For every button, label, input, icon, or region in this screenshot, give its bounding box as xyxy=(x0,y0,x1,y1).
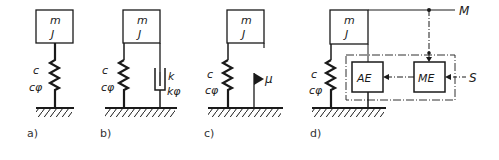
friction-element xyxy=(254,73,264,108)
input-label-s: S xyxy=(469,71,477,85)
mass-label-j: J xyxy=(136,28,141,41)
block-ae-label: AE xyxy=(356,72,372,85)
panel-a: m J c cφ a) xyxy=(27,10,74,140)
damper xyxy=(155,68,165,108)
spring-label-c: c xyxy=(102,64,108,77)
friction-label-mu: μ xyxy=(264,72,273,86)
arrow-left xyxy=(445,74,451,80)
spring xyxy=(326,60,335,108)
spring-label-c: c xyxy=(311,68,317,81)
mass-label-m: m xyxy=(241,14,252,27)
ground-hatch xyxy=(312,109,384,117)
ground-hatch xyxy=(36,109,72,117)
panel-caption: b) xyxy=(100,127,111,140)
mechanical-models-diagram: m J c cφ a) m J c cφ k kφ b) xyxy=(0,0,499,160)
mass-label-m: m xyxy=(137,14,148,27)
mass-label-j: J xyxy=(240,28,245,41)
junction-dot xyxy=(427,51,431,55)
spring-label-c: c xyxy=(207,68,213,81)
panel-caption: c) xyxy=(204,127,214,140)
panel-caption: d) xyxy=(310,127,321,140)
spring-label-c: c xyxy=(33,64,39,77)
spring xyxy=(119,60,128,108)
spring-label-cphi: cφ xyxy=(205,84,219,97)
ground-hatch xyxy=(105,109,175,117)
damper-label-kphi: kφ xyxy=(167,85,181,98)
mass-label-j: J xyxy=(49,28,54,41)
panel-b: m J c cφ k kφ b) xyxy=(100,10,181,140)
panel-d: m J c cφ M AE ME S xyxy=(309,4,477,140)
spring-label-cphi: cφ xyxy=(29,81,43,94)
mass-label-m: m xyxy=(344,14,355,27)
mass-label-m: m xyxy=(50,14,61,27)
output-label-m: M xyxy=(459,4,470,18)
panel-caption: a) xyxy=(27,127,38,140)
damper-label-k: k xyxy=(168,70,175,83)
ground-hatch xyxy=(208,109,281,117)
spring-label-cphi: cφ xyxy=(309,84,323,97)
spring xyxy=(50,43,59,108)
spring-label-cphi: cφ xyxy=(101,81,115,94)
spring xyxy=(223,60,232,108)
block-me-label: ME xyxy=(418,72,434,85)
mass-label-j: J xyxy=(343,28,348,41)
panel-c: m J c cφ μ c) xyxy=(204,10,283,140)
arrow-left xyxy=(383,74,389,80)
